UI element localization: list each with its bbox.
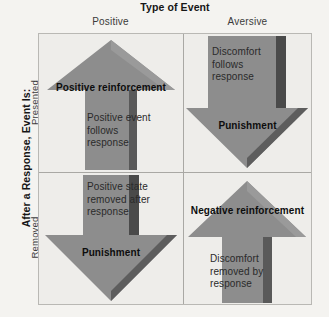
matrix-grid: Positive reinforcement Positive event fo… (38, 33, 312, 305)
description-text: Positive state removed after response (87, 181, 159, 219)
outcome-label: Negative reinforcement (184, 205, 311, 217)
cell-presented-positive: Positive reinforcement Positive event fo… (39, 34, 183, 172)
column-header-aversive: Aversive (183, 16, 312, 27)
cell-presented-aversive: Discomfort follows response Punishment (184, 34, 311, 172)
description-text: Positive event follows response (87, 112, 161, 150)
outcome-label: Punishment (184, 120, 311, 132)
cell-removed-positive: Positive state removed after response Pu… (39, 173, 183, 304)
cell-removed-aversive: Negative reinforcement Discomfort remove… (184, 173, 311, 304)
description-text: Discomfort removed by response (210, 253, 290, 291)
outcome-label: Positive reinforcement (39, 82, 183, 94)
operant-conditioning-matrix: Type of Event Positive Aversive After a … (0, 0, 329, 317)
description-text: Discomfort follows response (212, 46, 284, 84)
column-header-positive: Positive (38, 16, 183, 27)
column-axis-title: Type of Event (38, 1, 312, 13)
up-arrow-icon (39, 34, 183, 172)
outcome-label: Punishment (39, 247, 183, 259)
